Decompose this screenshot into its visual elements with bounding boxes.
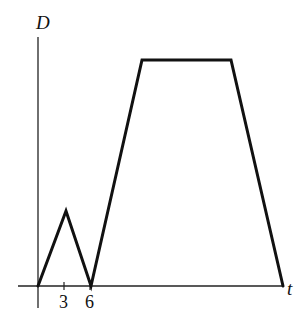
x-tick-label-3: 3 xyxy=(59,292,68,312)
x-tick-label-6: 6 xyxy=(85,292,94,312)
y-axis-label: D xyxy=(35,12,50,33)
x-axis-label: t xyxy=(287,278,293,299)
chart: D t 3 6 xyxy=(0,0,306,329)
data-line xyxy=(38,60,283,286)
